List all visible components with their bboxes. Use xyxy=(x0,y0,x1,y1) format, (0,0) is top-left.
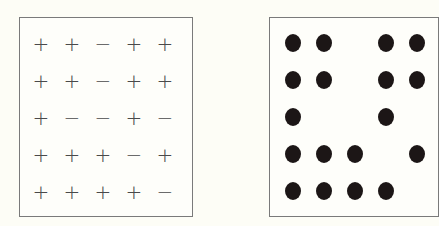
plus-sign: + xyxy=(30,33,52,55)
filled-dot xyxy=(316,71,332,89)
filled-dot xyxy=(316,145,332,163)
filled-dot xyxy=(409,34,425,52)
grid-symbol: − xyxy=(95,71,112,91)
plus-sign: + xyxy=(92,144,114,166)
grid-symbol: + xyxy=(126,108,143,128)
grid-symbol: − xyxy=(95,34,112,54)
filled-dot xyxy=(378,182,394,200)
grid-symbol: + xyxy=(95,145,112,165)
grid-symbol: + xyxy=(33,34,50,54)
plus-sign: + xyxy=(30,70,52,92)
grid-symbol: + xyxy=(64,145,81,165)
filled-dot xyxy=(285,71,301,89)
plus-sign: + xyxy=(61,144,83,166)
plus-sign: + xyxy=(154,144,176,166)
plus-sign: + xyxy=(123,181,145,203)
grid-symbol: + xyxy=(64,34,81,54)
minus-sign: − xyxy=(92,33,114,55)
plus-sign: + xyxy=(30,107,52,129)
filled-dot xyxy=(316,182,332,200)
grid-symbol: + xyxy=(33,108,50,128)
grid-symbol: − xyxy=(157,182,174,202)
minus-sign: − xyxy=(123,144,145,166)
sign-grid-panel: ++−++++−+++−−+−+++−+++++− xyxy=(19,17,193,217)
grid-symbol: + xyxy=(126,34,143,54)
plus-sign: + xyxy=(154,33,176,55)
grid-symbol: − xyxy=(64,108,81,128)
grid-symbol: + xyxy=(33,71,50,91)
minus-sign: − xyxy=(92,107,114,129)
grid-symbol: + xyxy=(64,182,81,202)
grid-symbol: + xyxy=(126,182,143,202)
minus-sign: − xyxy=(154,107,176,129)
filled-dot xyxy=(378,71,394,89)
plus-sign: + xyxy=(61,70,83,92)
dot-grid-panel xyxy=(269,17,439,217)
grid-symbol: + xyxy=(33,145,50,165)
filled-dot xyxy=(409,71,425,89)
plus-sign: + xyxy=(30,181,52,203)
grid-symbol: − xyxy=(95,108,112,128)
filled-dot xyxy=(316,34,332,52)
minus-sign: − xyxy=(154,181,176,203)
filled-dot xyxy=(347,145,363,163)
grid-symbol: + xyxy=(157,71,174,91)
filled-dot xyxy=(285,145,301,163)
minus-sign: − xyxy=(92,70,114,92)
grid-symbol: + xyxy=(126,71,143,91)
filled-dot xyxy=(285,34,301,52)
minus-sign: − xyxy=(61,107,83,129)
plus-sign: + xyxy=(61,33,83,55)
plus-sign: + xyxy=(123,70,145,92)
grid-symbol: + xyxy=(64,71,81,91)
grid-symbol: + xyxy=(33,182,50,202)
grid-symbol: + xyxy=(95,182,112,202)
plus-sign: + xyxy=(123,33,145,55)
filled-dot xyxy=(285,108,301,126)
filled-dot xyxy=(347,182,363,200)
plus-sign: + xyxy=(154,70,176,92)
plus-sign: + xyxy=(30,144,52,166)
grid-symbol: + xyxy=(157,34,174,54)
grid-symbol: − xyxy=(157,108,174,128)
plus-sign: + xyxy=(123,107,145,129)
grid-symbol: − xyxy=(126,145,143,165)
plus-sign: + xyxy=(61,181,83,203)
filled-dot xyxy=(409,145,425,163)
filled-dot xyxy=(378,34,394,52)
filled-dot xyxy=(378,108,394,126)
grid-symbol: + xyxy=(157,145,174,165)
filled-dot xyxy=(285,182,301,200)
plus-sign: + xyxy=(92,181,114,203)
